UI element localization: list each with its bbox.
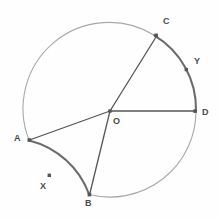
point-marker-D <box>193 109 197 113</box>
point-marker-B <box>88 193 92 197</box>
point-marker-O <box>108 109 111 112</box>
geometry-diagram: C Y D B X A O <box>0 0 219 218</box>
point-marker-A <box>28 138 32 142</box>
arc-C-Y-D-dark <box>154 35 196 111</box>
point-label-B: B <box>85 199 92 208</box>
radius-OC <box>110 37 156 111</box>
point-label-C: C <box>163 17 170 26</box>
point-label-D: D <box>202 108 209 117</box>
arc-A-X-B-dark <box>29 140 89 194</box>
point-marker-Y <box>185 68 188 71</box>
point-label-Y: Y <box>194 57 200 66</box>
arc-A-C-light <box>23 22 154 140</box>
point-label-X: X <box>40 182 46 191</box>
arc-D-B-light <box>89 111 196 197</box>
circle-diagram-canvas <box>0 0 219 218</box>
radius-OA <box>30 111 111 140</box>
point-marker-X <box>48 174 51 177</box>
radius-OB <box>90 111 111 195</box>
point-label-A: A <box>14 134 21 143</box>
point-label-O: O <box>113 117 120 126</box>
point-marker-C <box>154 34 158 38</box>
